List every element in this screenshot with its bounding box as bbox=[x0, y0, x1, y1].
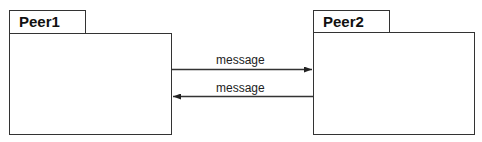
message-arrows bbox=[0, 0, 482, 142]
message-label-forward: message bbox=[216, 54, 265, 66]
message-label-return: message bbox=[216, 82, 265, 94]
